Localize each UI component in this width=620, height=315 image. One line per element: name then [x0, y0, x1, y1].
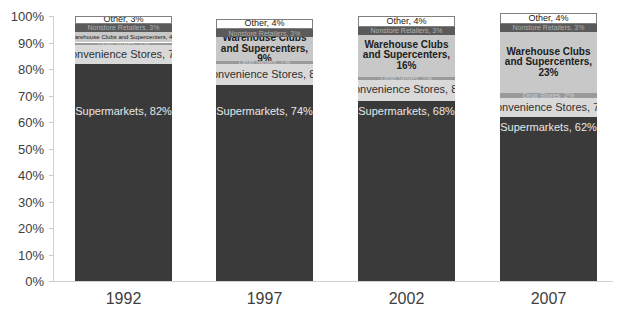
segment-label: Supermarkets, 82%: [75, 106, 172, 118]
y-tick-label: 20%: [0, 221, 44, 236]
y-tick-label: 50%: [0, 141, 44, 156]
segment-nonstore-retailers: Nonstore Retailers, 3%: [358, 27, 455, 35]
y-tick-mark: [49, 255, 53, 256]
segment-other: Other, 3%: [75, 16, 172, 24]
segment-label: Warehouse Clubs and Supercenters, 4%: [75, 34, 172, 40]
bar-2002: Supermarkets, 68%Convenience Stores, 8%D…: [358, 16, 455, 281]
segment-label: Drug Stores, 1%: [239, 61, 290, 64]
segment-drug-stores: Drug Stores, 1%: [216, 61, 313, 64]
segment-label: Drug Stores, 2%: [523, 93, 574, 98]
segment-label: Warehouse Clubs and Supercenters, 9%: [216, 37, 313, 61]
y-tick-label: 70%: [0, 88, 44, 103]
segment-label: Supermarkets, 74%: [216, 106, 313, 118]
y-tick-mark: [49, 149, 53, 150]
x-category-label: 2002: [358, 290, 455, 308]
segment-label: Supermarkets, 62%: [500, 122, 597, 134]
segment-drug-stores: Drug Stores, 1%: [75, 43, 172, 46]
segment-convenience-stores: Convenience Stores, 7%: [75, 45, 172, 64]
segment-supermarkets: Supermarkets, 82%: [75, 64, 172, 281]
segment-nonstore-retailers: Nonstore Retailers, 3%: [500, 24, 597, 32]
y-tick-label: 100%: [0, 9, 44, 24]
bar-2007: Supermarkets, 62%Convenience Stores, 7%D…: [500, 16, 597, 281]
segment-drug-stores: Drug Stores, 1%: [358, 77, 455, 80]
y-tick-mark: [49, 16, 53, 17]
y-tick-label: 10%: [0, 247, 44, 262]
segment-convenience-stores: Convenience Stores, 8%: [358, 80, 455, 101]
y-tick-label: 90%: [0, 35, 44, 50]
y-tick-label: 30%: [0, 194, 44, 209]
segment-label: Drug Stores, 1%: [381, 77, 432, 80]
segment-label: Convenience Stores, 7%: [75, 49, 172, 61]
y-tick-label: 80%: [0, 62, 44, 77]
segment-nonstore-retailers: Nonstore Retailers, 3%: [216, 29, 313, 37]
segment-convenience-stores: Convenience Stores, 7%: [500, 98, 597, 117]
segment-label: Drug Stores, 1%: [98, 43, 149, 46]
x-axis-line: [53, 281, 613, 282]
segment-other: Other, 4%: [216, 19, 313, 30]
y-tick-mark: [49, 43, 53, 44]
segment-label: Nonstore Retailers, 3%: [513, 24, 585, 31]
segment-label: Nonstore Retailers, 3%: [229, 30, 301, 37]
segment-label: Nonstore Retailers, 3%: [371, 27, 443, 34]
segment-label: Warehouse Clubs and Supercenters, 16%: [358, 40, 455, 72]
y-tick-label: 0%: [0, 274, 44, 289]
segment-supermarkets: Supermarkets, 68%: [358, 101, 455, 281]
segment-label: Convenience Stores, 7%: [500, 102, 597, 114]
segment-warehouse-clubs-and-supercenters: Warehouse Clubs and Supercenters, 4%: [75, 32, 172, 43]
y-tick-mark: [49, 281, 53, 282]
segment-label: Other, 4%: [244, 19, 284, 28]
segment-label: Warehouse Clubs and Supercenters, 23%: [500, 47, 597, 79]
stacked-bar-chart: 0%10%20%30%40%50%60%70%80%90%100% Superm…: [0, 0, 620, 315]
segment-nonstore-retailers: Nonstore Retailers, 3%: [75, 24, 172, 32]
segment-label: Other, 3%: [103, 16, 143, 24]
segment-other: Other, 4%: [358, 16, 455, 27]
segment-supermarkets: Supermarkets, 62%: [500, 117, 597, 281]
segment-warehouse-clubs-and-supercenters: Warehouse Clubs and Supercenters, 16%: [358, 35, 455, 77]
segment-warehouse-clubs-and-supercenters: Warehouse Clubs and Supercenters, 9%: [216, 37, 313, 61]
segment-warehouse-clubs-and-supercenters: Warehouse Clubs and Supercenters, 23%: [500, 32, 597, 93]
segment-other: Other, 4%: [500, 13, 597, 24]
segment-supermarkets: Supermarkets, 74%: [216, 85, 313, 281]
x-category-label: 1992: [75, 290, 172, 308]
segment-drug-stores: Drug Stores, 2%: [500, 93, 597, 98]
y-tick-mark: [49, 175, 53, 176]
y-tick-label: 60%: [0, 115, 44, 130]
bar-1997: Supermarkets, 74%Convenience Stores, 8%D…: [216, 16, 313, 281]
segment-label: Convenience Stores, 8%: [358, 84, 455, 96]
segment-label: Supermarkets, 68%: [358, 106, 455, 118]
y-tick-mark: [49, 122, 53, 123]
y-tick-mark: [49, 228, 53, 229]
x-category-label: 1997: [216, 290, 313, 308]
y-axis-line: [53, 16, 54, 281]
segment-label: Other, 4%: [386, 17, 426, 26]
segment-convenience-stores: Convenience Stores, 8%: [216, 64, 313, 85]
y-tick-mark: [49, 202, 53, 203]
segment-label: Convenience Stores, 8%: [216, 69, 313, 81]
bar-1992: Supermarkets, 82%Convenience Stores, 7%D…: [75, 16, 172, 281]
x-category-label: 2007: [500, 290, 597, 308]
segment-label: Other, 4%: [528, 14, 568, 23]
y-tick-mark: [49, 96, 53, 97]
y-tick-mark: [49, 69, 53, 70]
segment-label: Nonstore Retailers, 3%: [88, 24, 160, 31]
y-tick-label: 40%: [0, 168, 44, 183]
